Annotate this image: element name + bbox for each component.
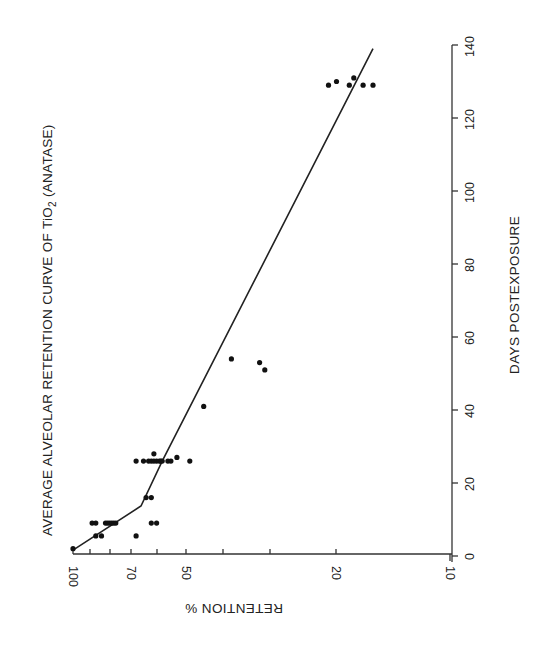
data-point	[326, 83, 331, 88]
days-axis-label: DAYS POSTEXPOSURE	[507, 216, 522, 374]
retention-axis-label: RETENTION %	[185, 601, 283, 616]
data-point	[93, 533, 98, 538]
data-point	[93, 521, 98, 526]
data-point	[151, 451, 156, 456]
day-tick-60: 60	[463, 331, 477, 345]
data-point	[70, 546, 75, 551]
retention-tick-100: 100	[66, 566, 80, 587]
data-point	[160, 459, 165, 464]
day-tick-80: 80	[463, 258, 477, 272]
retention-tick-50: 50	[179, 566, 193, 580]
retention-tick-20: 20	[329, 566, 343, 580]
data-point	[134, 533, 139, 538]
days-axis: 0 20 40 60 80 100 120 140 DAYS POSTEXPOS…	[452, 36, 522, 562]
retention-curve-line	[73, 49, 373, 551]
data-point	[361, 83, 366, 88]
data-point	[174, 455, 179, 460]
retention-chart: AVERAGE ALVEOLAR RETENTION CURVE OF TiO2…	[0, 0, 552, 646]
data-point	[257, 360, 262, 365]
data-point	[134, 459, 139, 464]
data-point	[187, 459, 192, 464]
data-point	[370, 83, 375, 88]
retention-axis: 100 70 50 20 10 RETENTION %	[66, 547, 457, 616]
day-tick-0: 0	[463, 553, 477, 560]
data-point	[351, 75, 356, 80]
data-point	[201, 404, 206, 409]
day-tick-100: 100	[463, 182, 477, 203]
day-tick-120: 120	[463, 109, 477, 130]
data-point	[262, 367, 267, 372]
data-point	[229, 356, 234, 361]
data-point	[113, 521, 118, 526]
data-point	[99, 533, 104, 538]
day-tick-40: 40	[463, 404, 477, 418]
data-point	[154, 521, 159, 526]
data-point	[144, 495, 149, 500]
data-point	[149, 495, 154, 500]
retention-tick-10: 10	[443, 566, 457, 580]
data-points	[70, 75, 375, 551]
data-point	[347, 83, 352, 88]
data-point	[168, 459, 173, 464]
data-point	[149, 521, 154, 526]
chart-title: AVERAGE ALVEOLAR RETENTION CURVE OF TiO2…	[40, 124, 58, 536]
data-point	[141, 459, 146, 464]
day-tick-140: 140	[463, 36, 477, 57]
day-tick-20: 20	[463, 477, 477, 491]
retention-tick-70: 70	[124, 566, 138, 580]
data-point	[334, 79, 339, 84]
